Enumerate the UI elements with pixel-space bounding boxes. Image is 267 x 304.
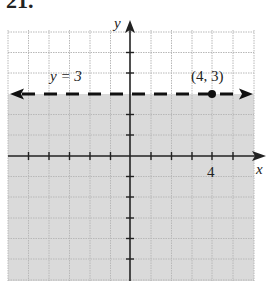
shaded-region [8,94,254,281]
y-axis-label: y [112,15,121,31]
x-axis-label: x [255,161,263,177]
graph: y = 3 (4, 3) x y 4 [0,0,267,304]
x-tick-label-4: 4 [207,164,215,180]
point-4-3 [208,90,216,98]
line-label: y = 3 [48,68,82,84]
point-label: (4, 3) [191,68,224,85]
